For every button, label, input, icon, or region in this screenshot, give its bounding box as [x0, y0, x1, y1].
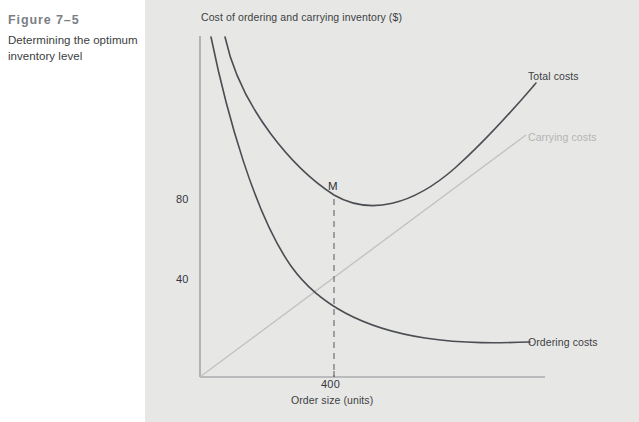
carrying-costs-label: Carrying costs — [528, 131, 597, 143]
total-costs-curve — [225, 37, 536, 206]
ordering-costs-label: Ordering costs — [528, 336, 598, 348]
figure-number: Figure 7–5 — [8, 13, 80, 27]
x-axis-tick-400: 400 — [321, 378, 340, 390]
y-axis-tick-80: 80 — [176, 193, 189, 205]
optimum-point-marker-label: M — [328, 180, 338, 192]
total-costs-label: Total costs — [528, 70, 579, 82]
figure-panel: Cost of ordering and carrying inventory … — [145, 0, 639, 422]
chart-plot-area — [145, 0, 639, 422]
figure-caption-text: Determining the optimum inventory level — [8, 33, 138, 64]
carrying-costs-line — [201, 135, 527, 377]
ordering-costs-curve — [211, 37, 530, 343]
x-axis-label: Order size (units) — [291, 394, 373, 406]
figure-caption-column: Figure 7–5 Determining the optimum inven… — [0, 0, 145, 422]
y-axis-tick-40: 40 — [176, 273, 189, 285]
